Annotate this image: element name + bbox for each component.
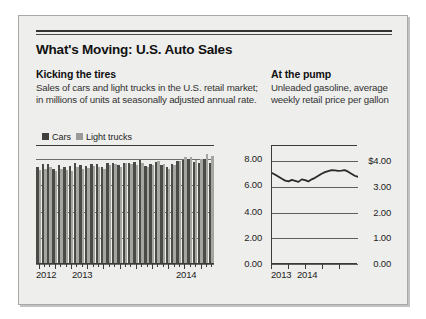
right-deck: Unleaded gasoline, average weekly retail… bbox=[271, 82, 391, 105]
bar-x-tick bbox=[114, 264, 115, 267]
line-y-tick-label: 1.00 bbox=[373, 232, 391, 243]
legend-item-cars: Cars bbox=[42, 132, 71, 142]
legend-label-light-trucks: Light trucks bbox=[86, 132, 132, 142]
line-y-axis-labels: $4.003.002.001.000.00 bbox=[357, 145, 391, 263]
bar-x-tick bbox=[130, 264, 131, 267]
bar-x-tick bbox=[211, 264, 212, 267]
line-plot-area bbox=[271, 145, 357, 263]
line-y-tick-label: 0.00 bbox=[373, 258, 391, 269]
bar-chart: Cars Light trucks 8.006.004.002.000.00 2… bbox=[36, 128, 262, 283]
line-chart: $4.003.002.001.000.00 20132014 bbox=[271, 128, 391, 283]
left-column-text: Kicking the tires Sales of cars and ligh… bbox=[36, 68, 262, 105]
line-y-tick-label: 3.00 bbox=[373, 181, 391, 192]
bar-y-axis-labels: 8.006.004.002.000.00 bbox=[216, 145, 262, 263]
rule-thin bbox=[36, 34, 392, 35]
bar-x-tick bbox=[179, 264, 180, 267]
bar-x-tick bbox=[195, 264, 196, 267]
legend-item-light-trucks: Light trucks bbox=[76, 132, 132, 142]
left-deck: Sales of cars and light trucks in the U.… bbox=[36, 82, 262, 105]
bar-x-tick-label: 2014 bbox=[176, 269, 196, 280]
bar-x-tick-label: 2012 bbox=[36, 269, 56, 280]
bar-x-tick bbox=[60, 264, 61, 267]
line-gridline bbox=[272, 187, 358, 188]
bar-x-tick bbox=[157, 264, 158, 267]
bar-y-tick-label: 2.00 bbox=[244, 231, 262, 242]
line-x-axis-labels: 20132014 bbox=[271, 269, 391, 283]
line-y-tick-label: 2.00 bbox=[373, 206, 391, 217]
bar-series-container bbox=[36, 145, 214, 263]
line-gridline bbox=[272, 213, 358, 214]
bar-x-tick bbox=[49, 264, 50, 267]
line-gridline bbox=[272, 238, 358, 239]
legend-swatch-light-trucks-icon bbox=[76, 133, 83, 140]
bar-x-tick bbox=[190, 264, 191, 267]
bar-x-tick bbox=[163, 264, 164, 267]
line-x-tick-label: 2013 bbox=[271, 269, 291, 280]
bar-x-tick bbox=[66, 264, 67, 267]
bar-group bbox=[209, 145, 214, 263]
bar-y-tick-label: 0.00 bbox=[244, 258, 262, 269]
gasoline-price-line bbox=[272, 146, 358, 264]
bar-y-tick-label: 4.00 bbox=[244, 205, 262, 216]
bar-x-tick bbox=[206, 264, 207, 267]
line-x-tick-label: 2014 bbox=[297, 269, 317, 280]
legend-label-cars: Cars bbox=[52, 132, 71, 142]
bar-x-tick bbox=[174, 264, 175, 267]
bar-light-trucks bbox=[211, 156, 213, 263]
bar-y-tick-label: 6.00 bbox=[244, 179, 262, 190]
line-y-tick-label: $4.00 bbox=[368, 155, 391, 166]
bar-x-axis-labels: 201220132014 bbox=[36, 269, 262, 283]
bar-x-tick bbox=[147, 264, 148, 267]
bar-x-tick bbox=[125, 264, 126, 267]
bar-x-tick bbox=[141, 264, 142, 267]
bar-chart-legend: Cars Light trucks bbox=[42, 130, 132, 143]
bar-y-tick-label: 8.00 bbox=[244, 153, 262, 164]
infographic-panel: What's Moving: U.S. Auto Sales Kicking t… bbox=[18, 15, 408, 305]
bar-x-tick bbox=[76, 264, 77, 267]
bar-x-tick bbox=[98, 264, 99, 267]
left-subhead: Kicking the tires bbox=[36, 68, 262, 81]
top-rule bbox=[36, 30, 392, 35]
infographic-root: What's Moving: U.S. Auto Sales Kicking t… bbox=[0, 0, 426, 319]
line-gridline bbox=[272, 161, 358, 162]
right-subhead: At the pump bbox=[271, 68, 391, 81]
page-title: What's Moving: U.S. Auto Sales bbox=[36, 42, 392, 57]
bar-plot-area bbox=[36, 145, 214, 263]
bar-x-tick bbox=[109, 264, 110, 267]
bar-x-tick bbox=[93, 264, 94, 267]
bar-x-tick-label: 2013 bbox=[72, 269, 92, 280]
right-column-text: At the pump Unleaded gasoline, average w… bbox=[271, 68, 391, 105]
bar-x-tick bbox=[44, 264, 45, 267]
bar-x-tick bbox=[82, 264, 83, 267]
legend-swatch-cars-icon bbox=[42, 133, 49, 140]
